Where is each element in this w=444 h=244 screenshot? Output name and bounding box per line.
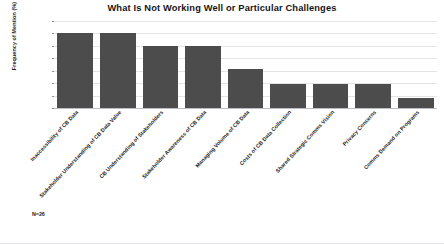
bar-slot: [182, 21, 225, 108]
bar[interactable]: [270, 84, 306, 108]
bar-slot: [309, 21, 352, 108]
bar[interactable]: [185, 46, 221, 108]
bar[interactable]: [313, 84, 349, 108]
bar-slot: [97, 21, 140, 108]
bar[interactable]: [228, 69, 264, 108]
bar-slot: [394, 21, 437, 108]
y-axis-label: Frequency of Mention (%): [11, 0, 17, 91]
bar[interactable]: [355, 84, 391, 108]
bar-slot: [139, 21, 182, 108]
bar[interactable]: [143, 46, 179, 108]
bar[interactable]: [398, 98, 434, 108]
bar-slot: [352, 21, 395, 108]
bar[interactable]: [100, 33, 136, 108]
bar-slot: [224, 21, 267, 108]
x-tick-label: Inaccessibility of CB Data: [29, 109, 79, 162]
plot-area: 010203040506070: [54, 21, 437, 108]
x-axis-labels: Inaccessibility of CB DataStakeholder Un…: [54, 109, 437, 209]
sample-size-annotation: N=26: [32, 211, 45, 217]
bar[interactable]: [57, 33, 93, 108]
bar-slot: [267, 21, 310, 108]
bar-slot: [54, 21, 97, 108]
chart-title: What Is Not Working Well or Particular C…: [0, 3, 444, 13]
bar-series: [54, 21, 437, 108]
chart-figure: What Is Not Working Well or Particular C…: [0, 0, 444, 244]
x-tick-label: Stakeholder Understanding of CB Data Val…: [38, 109, 122, 199]
x-tick-label: Privacy Concerns: [342, 109, 378, 147]
